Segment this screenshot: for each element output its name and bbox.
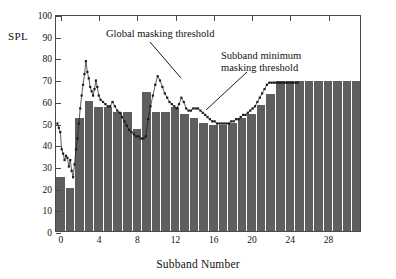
y-tick-label: 30 bbox=[43, 163, 53, 173]
y-tick bbox=[56, 190, 61, 191]
y-tick bbox=[56, 103, 61, 104]
y-tick-label: 60 bbox=[43, 98, 53, 108]
x-tick-label: 24 bbox=[286, 235, 296, 245]
y-tick bbox=[56, 59, 61, 60]
x-axis-label: Subband Number bbox=[0, 258, 396, 270]
y-tick bbox=[56, 211, 61, 212]
chart-figure: SPL 0102030405060708090100 0481216202428… bbox=[0, 0, 396, 279]
x-tick-top bbox=[61, 16, 62, 21]
x-tick-label: 16 bbox=[209, 235, 219, 245]
annotation-subband-minimum-masking-threshold: Subband minimum masking threshold bbox=[221, 50, 301, 74]
plot-area: 0102030405060708090100 0481216202428 bbox=[55, 15, 361, 232]
x-tick-top bbox=[137, 16, 138, 21]
x-tick-top bbox=[252, 16, 253, 21]
x-tick-label: 0 bbox=[58, 235, 63, 245]
x-tick-label: 8 bbox=[135, 235, 140, 245]
y-tick-label: 100 bbox=[38, 11, 52, 21]
y-tick-label: 90 bbox=[43, 33, 53, 43]
y-tick-label: 10 bbox=[43, 206, 53, 216]
y-tick-label: 50 bbox=[43, 120, 53, 130]
y-tick bbox=[56, 168, 61, 169]
x-tick-top bbox=[329, 16, 330, 21]
y-tick-label: 80 bbox=[43, 54, 53, 64]
x-tick-top bbox=[99, 16, 100, 21]
y-tick bbox=[56, 38, 61, 39]
x-tick-top bbox=[214, 16, 215, 21]
x-tick-top bbox=[176, 16, 177, 21]
x-tick-label: 4 bbox=[97, 235, 102, 245]
x-tick-label: 28 bbox=[324, 235, 334, 245]
y-tick bbox=[56, 125, 61, 126]
y-tick-label: 0 bbox=[47, 228, 52, 238]
y-tick bbox=[56, 233, 61, 234]
y-tick bbox=[56, 146, 61, 147]
y-tick-label: 20 bbox=[43, 185, 53, 195]
x-tick-label: 12 bbox=[171, 235, 181, 245]
global-masking-threshold-curve bbox=[56, 16, 360, 231]
annotation-global-masking-threshold: Global masking threshold bbox=[106, 28, 215, 40]
y-tick-label: 40 bbox=[43, 141, 53, 151]
y-tick-label: 70 bbox=[43, 76, 53, 86]
x-tick-label: 20 bbox=[247, 235, 257, 245]
x-tick-top bbox=[290, 16, 291, 21]
y-tick bbox=[56, 81, 61, 82]
